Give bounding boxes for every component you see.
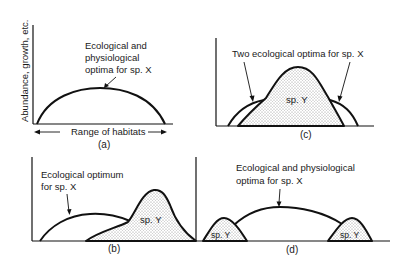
sp-x-curve <box>234 207 342 225</box>
annotation-line-1: Ecological and <box>85 40 147 51</box>
x-axis-arrow-right-icon <box>148 130 167 135</box>
panel-d: sp. Y sp. Y Ecological and physiological… <box>196 157 390 255</box>
annotation-line-3: optima for sp. X <box>85 64 152 75</box>
panel-a: Abundance, growth, etc. Ecological and p… <box>19 20 173 150</box>
annotation-line-1: Two ecological optima for sp. X <box>232 48 364 59</box>
sp-y-right-label: sp. Y <box>340 230 360 240</box>
pointer-arrow <box>67 194 72 215</box>
annotation-line-2: for sp. X <box>41 181 77 192</box>
panel-caption: (a) <box>98 139 110 150</box>
pointer-arrow-left <box>244 62 255 102</box>
panel-caption: (d) <box>286 244 298 255</box>
panel-b: sp. Y Ecological optimum for sp. X (b) <box>32 157 196 254</box>
x-axis-arrow-left-icon <box>34 130 60 135</box>
panel-caption: (b) <box>108 243 120 254</box>
panel-caption: (c) <box>300 129 312 140</box>
sp-y-label: sp. Y <box>140 214 162 225</box>
pointer-arrow <box>277 189 282 207</box>
annotation-line-2: optima for sp. X <box>236 175 303 186</box>
sp-y-label: sp. Y <box>286 94 308 105</box>
pointer-arrow-right <box>338 62 351 102</box>
x-axis-label: Range of habitats <box>71 126 146 137</box>
annotation-line-2: physiological <box>85 52 139 63</box>
y-axis-label: Abundance, growth, etc. <box>19 20 30 122</box>
ecological-optima-figure: Abundance, growth, etc. Ecological and p… <box>0 0 406 268</box>
pointer-arrow <box>104 77 116 88</box>
sp-y-left-label: sp. Y <box>211 230 231 240</box>
panel-c: sp. Y Two ecological optima for sp. X (c… <box>216 38 374 140</box>
sp-x-curve <box>37 88 165 124</box>
annotation-line-1: Ecological and physiological <box>236 162 355 173</box>
annotation-line-1: Ecological optimum <box>41 169 123 180</box>
